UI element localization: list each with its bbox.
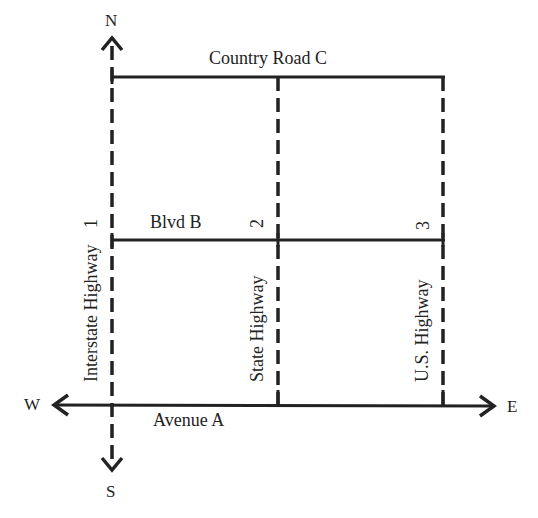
interstate-highway-label: Interstate Highway	[82, 245, 100, 382]
interstate-highway-number: 1	[82, 219, 100, 228]
avenue-a-label: Avenue A	[153, 411, 224, 429]
state-highway-number: 2	[248, 219, 266, 228]
compass-south-label: S	[106, 483, 115, 500]
country-road-c-label: Country Road C	[209, 49, 327, 67]
state-highway-label: State Highway	[248, 276, 266, 382]
south-arrow-icon	[102, 458, 122, 470]
us-highway-number: 3	[414, 221, 432, 230]
us-highway-label: U.S. Highway	[413, 280, 431, 383]
compass-west-label: W	[24, 396, 40, 413]
compass-north-label: N	[105, 12, 117, 29]
compass-east-label: E	[507, 398, 517, 415]
road-map: N S W E Country Road C Blvd B Avenue A I…	[0, 0, 538, 518]
avenue-a-line	[54, 405, 494, 406]
blvd-b-label: Blvd B	[150, 213, 202, 231]
